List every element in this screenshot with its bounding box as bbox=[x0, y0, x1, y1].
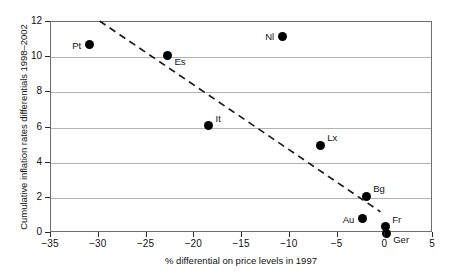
gridline-y-6 bbox=[51, 128, 431, 129]
y-tick-label-2: 2 bbox=[12, 192, 42, 202]
data-point-bg bbox=[362, 192, 371, 201]
y-tick-label-4: 4 bbox=[12, 157, 42, 167]
gridline-y-10 bbox=[51, 57, 431, 58]
data-point-ger bbox=[382, 229, 391, 238]
data-point-label-fr: Fr bbox=[392, 215, 401, 225]
x-tick-label--15: −15 bbox=[221, 238, 261, 249]
gridline-y-2 bbox=[51, 198, 431, 199]
x-tick-label-5: 5 bbox=[412, 238, 449, 249]
data-point-label-es: Es bbox=[175, 57, 186, 67]
x-tick--15 bbox=[241, 232, 242, 237]
x-tick-0 bbox=[384, 232, 385, 237]
gridline-y-8 bbox=[51, 92, 431, 93]
x-tick-label--25: −25 bbox=[126, 238, 166, 249]
data-point-nl bbox=[278, 32, 287, 41]
x-tick--25 bbox=[146, 232, 147, 237]
x-tick-5 bbox=[432, 232, 433, 237]
x-tick-label--5: −5 bbox=[317, 238, 357, 249]
x-tick--20 bbox=[193, 232, 194, 237]
x-tick-label--35: −35 bbox=[30, 238, 70, 249]
y-tick-12 bbox=[45, 21, 50, 22]
gridline-y-4 bbox=[51, 163, 431, 164]
data-point-label-pt: Pt bbox=[72, 41, 81, 51]
y-tick-8 bbox=[45, 91, 50, 92]
y-tick-6 bbox=[45, 127, 50, 128]
x-tick--10 bbox=[289, 232, 290, 237]
x-tick-label-0: 0 bbox=[364, 238, 404, 249]
data-point-label-it: It bbox=[216, 114, 221, 124]
x-tick-label--10: −10 bbox=[269, 238, 309, 249]
data-point-label-bg: Bg bbox=[373, 184, 385, 194]
y-tick-label-0: 0 bbox=[12, 227, 42, 237]
x-tick--5 bbox=[337, 232, 338, 237]
y-tick-label-6: 6 bbox=[12, 122, 42, 132]
x-axis-title: % differential on price levels in 1997 bbox=[50, 255, 432, 266]
y-tick-4 bbox=[45, 162, 50, 163]
y-tick-2 bbox=[45, 197, 50, 198]
x-tick-label--30: −30 bbox=[78, 238, 118, 249]
y-tick-label-10: 10 bbox=[12, 51, 42, 61]
y-tick-10 bbox=[45, 56, 50, 57]
data-point-label-au: Au bbox=[343, 215, 355, 225]
data-point-it bbox=[204, 121, 213, 130]
data-point-lx bbox=[316, 141, 325, 150]
plot-area: PtEsItNlLxBgAuFrGer bbox=[50, 21, 432, 232]
x-tick--35 bbox=[50, 232, 51, 237]
data-point-label-nl: Nl bbox=[265, 32, 274, 42]
data-point-pt bbox=[85, 40, 94, 49]
x-tick--30 bbox=[98, 232, 99, 237]
y-tick-label-12: 12 bbox=[12, 16, 42, 26]
x-tick-label--20: −20 bbox=[173, 238, 213, 249]
data-point-au bbox=[358, 214, 367, 223]
data-point-es bbox=[163, 51, 172, 60]
data-point-label-lx: Lx bbox=[327, 133, 337, 143]
y-tick-label-8: 8 bbox=[12, 86, 42, 96]
scatter-chart-figure: Cumulative inflation rates differentials… bbox=[0, 0, 449, 277]
